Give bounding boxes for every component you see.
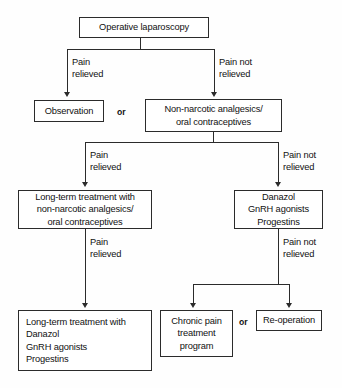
arrow-left-branch [82,303,88,308]
node-observation: Observation [34,100,104,122]
node-reoperation: Re-operation [256,310,322,331]
connector-right-branch-stem [278,229,279,285]
connector-root-bar [67,49,215,50]
node-observation-label: Observation [45,105,93,117]
node-danazol-group: Danazol GnRH agonists Progestins [234,190,323,229]
node-danazol-group-label: Danazol GnRH agonists Progestins [248,191,309,228]
edge-label-pain-not-relieved-3: Pain not relieved [283,236,316,260]
node-long-term-non-narcotic-label: Long-term treatment with non-narcotic an… [35,191,135,228]
connector-chronic-pain-drop [193,284,194,304]
or-label-bottom: or [239,317,247,327]
node-operative-laparoscopy-label: Operative laparoscopy [99,21,189,33]
edge-label-pain-not-relieved-1: Pain not relieved [219,56,252,80]
node-long-term-danazol: Long-term treatment with Danazol GnRH ag… [18,310,152,371]
or-label-top: or [117,107,125,117]
connector-level2-right-drop [278,142,279,183]
connector-level2-bar [85,142,279,143]
connector-root-right-drop [214,49,215,93]
arrow-level2-left [82,182,88,187]
connector-right-branch-bar [193,284,290,285]
connector-reoperation-drop [289,284,290,304]
node-operative-laparoscopy: Operative laparoscopy [79,17,209,38]
edge-label-pain-not-relieved-2: Pain not relieved [283,149,316,173]
node-long-term-danazol-label: Long-term treatment with Danazol GnRH ag… [26,316,126,365]
node-non-narcotic: Non-narcotic analgesics/ oral contracept… [145,99,282,132]
connector-root-left-drop [67,49,68,93]
node-chronic-pain-label: Chronic pain treatment program [171,315,221,352]
node-non-narcotic-label: Non-narcotic analgesics/ oral contracept… [164,103,262,128]
edge-label-pain-relieved-2: Pain relieved [90,149,121,173]
arrow-root-right [211,92,217,97]
node-reoperation-label: Re-operation [263,314,315,326]
node-chronic-pain: Chronic pain treatment program [160,310,233,357]
connector-left-branch-drop [85,229,86,305]
arrow-reoperation [286,303,292,308]
flowchart-diagram: Operative laparoscopy Pain relieved Pain… [0,0,342,388]
edge-label-pain-relieved-3: Pain relieved [90,236,121,260]
node-long-term-non-narcotic: Long-term treatment with non-narcotic an… [18,190,152,229]
arrow-level2-right [275,182,281,187]
connector-level2-left-drop [85,142,86,183]
arrow-root-left [64,92,70,97]
edge-label-pain-relieved-1: Pain relieved [72,56,103,80]
arrow-chronic-pain [190,303,196,308]
